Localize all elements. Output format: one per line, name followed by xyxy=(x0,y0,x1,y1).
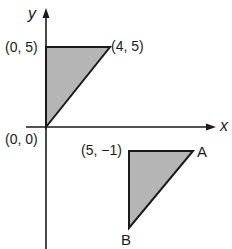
y-axis-arrow-icon xyxy=(43,8,50,18)
x-axis-arrow-icon xyxy=(206,124,216,131)
point-label-5-neg1: (5, −1) xyxy=(81,143,122,157)
x-axis-label: x xyxy=(220,118,228,134)
triangle-1 xyxy=(46,47,110,127)
origin-label: (0, 0) xyxy=(5,132,38,146)
point-label-0-5: (0, 5) xyxy=(5,40,38,54)
y-axis-label: y xyxy=(28,6,36,22)
vertex-label-a: A xyxy=(197,144,207,159)
triangle-2 xyxy=(129,151,193,228)
vertex-label-b: B xyxy=(121,232,131,247)
point-label-4-5: (4, 5) xyxy=(111,39,144,53)
